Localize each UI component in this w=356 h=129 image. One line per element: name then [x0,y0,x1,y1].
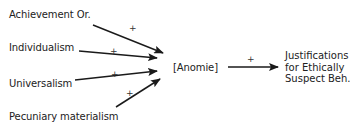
sign-individualism: + [110,47,118,56]
arrow-achievement-to-anomie [93,25,163,53]
node-anomie: [Anomie] [173,62,218,73]
node-justifications: Justifications for Ethically Suspect Beh… [285,50,351,85]
sign-anomie-outcome: + [247,55,255,64]
outcome-line-3: Suspect Beh. [285,73,351,85]
sign-universalism: + [111,70,119,79]
node-universalism: Universalism [9,78,72,89]
sign-pecuniary: + [126,89,134,98]
outcome-line-1: Justifications [285,50,351,62]
node-individualism: Individualism [9,42,74,53]
sign-achievement: + [129,24,137,33]
arrow-individualism-to-anomie [79,51,157,58]
node-pecuniary-materialism: Pecuniary materialism [9,111,118,122]
node-achievement: Achievement Or. [9,9,91,20]
outcome-line-2: for Ethically [285,62,351,74]
arrow-pecuniary-to-anomie [116,79,160,107]
